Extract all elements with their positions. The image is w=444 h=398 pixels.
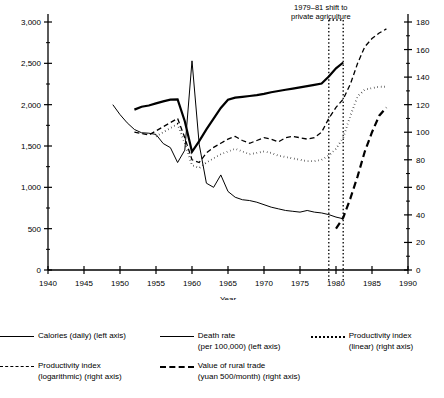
legend-label-line2: (logarithmic) (right axis)	[38, 371, 122, 382]
right-axis-tick-label: 160	[416, 46, 430, 55]
right-axis-tick-label: 140	[416, 73, 430, 82]
x-axis-tick-label: 1975	[291, 279, 309, 288]
left-axis-tick-label: 1,000	[21, 183, 42, 192]
right-axis-tick-label: 180	[416, 18, 430, 27]
left-axis-tick-label: 1,500	[21, 142, 42, 151]
annotation-label-line1: 1979–81 shift to	[294, 3, 347, 12]
legend-item: Calories (daily) (left axis)	[0, 330, 160, 360]
chart-plot-area: 05001,0001,5002,0002,5003,00002040608010…	[0, 0, 444, 300]
chart-page: 05001,0001,5002,0002,5003,00002040608010…	[0, 0, 444, 398]
series-line	[156, 87, 386, 168]
legend-spacer	[311, 360, 444, 390]
line-chart: 05001,0001,5002,0002,5003,00002040608010…	[0, 0, 444, 300]
legend-swatch-dashed-icon	[0, 362, 34, 371]
legend-item: Productivity index (logarithmic) (right …	[0, 360, 160, 390]
legend-label: Productivity index	[349, 331, 412, 340]
left-axis-tick-label: 500	[28, 225, 42, 234]
legend-label-line2: (per 100,000) (left axis)	[198, 341, 281, 352]
chart-legend: Calories (daily) (left axis) Death rate …	[0, 330, 444, 398]
left-axis-tick-label: 0	[37, 266, 42, 275]
right-axis-tick-label: 80	[416, 156, 425, 165]
x-axis-tick-label: 1955	[147, 279, 165, 288]
left-axis-tick-label: 3,000	[21, 18, 42, 27]
x-axis-tick-label: 1990	[399, 279, 417, 288]
legend-table: Calories (daily) (left axis) Death rate …	[0, 330, 444, 390]
x-axis-tick-label: 1945	[75, 279, 93, 288]
x-axis-tick-label: 1970	[255, 279, 273, 288]
legend-item: Productivity index (linear) (right axis)	[311, 330, 444, 360]
right-axis-tick-label: 0	[416, 266, 421, 275]
legend-label: Calories (daily) (left axis)	[38, 331, 126, 340]
left-axis-tick-label: 2,000	[21, 101, 42, 110]
legend-item: Value of rural trade (yuan 500/month) (r…	[160, 360, 311, 390]
x-axis-title: Year	[220, 295, 237, 300]
x-axis-tick-label: 1965	[219, 279, 237, 288]
legend-label-line2: (linear) (right axis)	[349, 341, 413, 352]
legend-label-line2: (yuan 500/month) (right axis)	[198, 371, 300, 382]
right-axis-tick-label: 120	[416, 101, 430, 110]
series-line	[134, 29, 386, 163]
legend-swatch-solid-icon	[160, 332, 194, 341]
legend-swatch-longdash-icon	[160, 362, 194, 371]
x-axis-tick-label: 1950	[111, 279, 129, 288]
legend-label: Productivity index	[38, 361, 101, 370]
right-axis-tick-label: 20	[416, 238, 425, 247]
annotation-label-line2: private agriculture	[291, 12, 351, 21]
x-axis-tick-label: 1960	[183, 279, 201, 288]
right-axis-tick-label: 40	[416, 211, 425, 220]
right-axis-tick-label: 60	[416, 183, 425, 192]
legend-label: Death rate	[198, 331, 235, 340]
x-axis-tick-label: 1940	[39, 279, 57, 288]
left-axis-tick-label: 2,500	[21, 59, 42, 68]
legend-swatch-solid-icon	[0, 332, 34, 341]
legend-label: Value of rural trade	[198, 361, 265, 370]
legend-item: Death rate (per 100,000) (left axis)	[160, 330, 311, 360]
right-axis-tick-label: 100	[416, 128, 430, 137]
legend-swatch-dotted-icon	[311, 332, 345, 341]
x-axis-tick-label: 1985	[363, 279, 381, 288]
